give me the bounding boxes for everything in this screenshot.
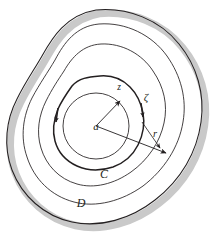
vector-z (96, 101, 120, 126)
vector-r-tick (142, 122, 160, 148)
center-label: a (93, 120, 99, 132)
contour-diagram: a z ζ r C D (0, 0, 213, 235)
figure-root: a z ζ r C D (0, 0, 213, 235)
C-label: C (100, 167, 109, 181)
contour-C-arrowhead-left (56, 108, 58, 122)
zeta-label: ζ (144, 91, 150, 104)
contour-C-arrowhead-right (141, 103, 143, 117)
z-label: z (116, 82, 121, 92)
D-label: D (76, 196, 86, 210)
r-label: r (153, 128, 158, 139)
